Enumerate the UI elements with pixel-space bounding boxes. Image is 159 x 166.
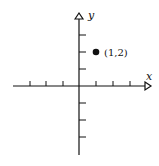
x-axis-arrow-icon <box>145 82 151 90</box>
coordinate-plane: y x (1,2) <box>0 0 159 166</box>
y-axis-label: y <box>87 9 95 22</box>
x-axis-label: x <box>146 70 153 83</box>
y-axis-arrow-icon <box>75 13 83 19</box>
point-marker <box>93 49 100 56</box>
point-label: (1,2) <box>104 47 128 58</box>
x-ticks <box>30 81 130 86</box>
